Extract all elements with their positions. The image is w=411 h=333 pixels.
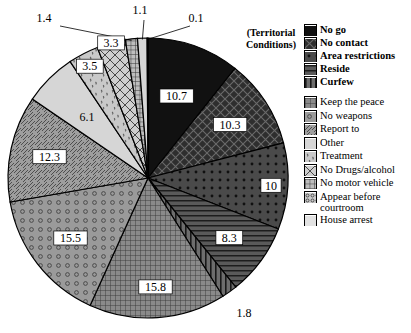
legend-item[interactable]: Keep the peace [304, 96, 411, 108]
pie-slice-value-label: 1.8 [237, 306, 252, 320]
legend-item[interactable]: No motor vehicle [304, 177, 411, 189]
pie-slice-value-label: 10 [261, 178, 281, 192]
pie-slice-value-text: 15.8 [145, 280, 166, 294]
pie-slices [8, 38, 288, 318]
pie-slice-value-label: 10.7 [160, 89, 193, 103]
pie-slice-value-text: 10.7 [166, 89, 187, 103]
legend-swatch-diagonal-lines-icon [304, 123, 317, 135]
legend-swatch-speckle-icon [304, 150, 317, 162]
pie-slice-value-label: 6.1 [79, 110, 94, 124]
pie-slice-value-label: 3.3 [98, 36, 125, 50]
legend-item[interactable]: No contact [304, 37, 411, 49]
legend-swatch-vertical-lines-icon [304, 76, 317, 88]
pie-slice-value-label: 1.1 [133, 3, 148, 17]
legend-item-label: Treatment [320, 150, 363, 161]
legend-item-label: No motor vehicle [320, 177, 393, 188]
legend-item-label: Report to [320, 123, 359, 134]
pie-chart-figure: 10.710.3108.31.815.815.512.36.13.53.31.4… [0, 0, 411, 333]
legend-item-label: Reside [320, 63, 350, 74]
legend-item[interactable]: No go [304, 24, 411, 36]
legend-item-label: No contact [320, 37, 368, 48]
legend-swatch-horizontal-lines-icon [304, 63, 317, 75]
legend-group-territorial: No goNo contactArea restrictionsResideCu… [304, 24, 411, 88]
pie-slice-value-text: 1.8 [237, 306, 252, 320]
legend-item-label: No go [320, 24, 346, 35]
pie-slice-value-text: 8.3 [222, 231, 237, 245]
legend-item-label: Appear before courtroom [320, 191, 380, 213]
legend-item-label: No Drugs/alcohol [320, 164, 395, 175]
legend-item[interactable]: Area restrictions [304, 50, 411, 62]
legend-group-other: Keep the peaceNo weaponsReport toOtherTr… [304, 96, 411, 226]
legend-item[interactable]: House arrest [304, 214, 411, 226]
pie-slice-value-text: 1.1 [133, 3, 148, 17]
pie-slice-value-text: 12.3 [39, 150, 60, 164]
pie-slice-value-label: 15.8 [139, 280, 172, 294]
legend-item[interactable]: Appear before courtroom [304, 191, 411, 213]
pie-slice-value-text: 10 [265, 179, 277, 193]
pie-slice-value-label: 15.5 [54, 231, 87, 245]
legend-group-divider [304, 89, 411, 96]
legend-swatch-fine-grid-icon [304, 96, 317, 108]
legend-item[interactable]: Report to [304, 123, 411, 135]
legend-swatch-circles-icon [304, 110, 317, 122]
legend-item[interactable]: Treatment [304, 150, 411, 162]
pie-leader-lines [60, 20, 190, 40]
pie-slice-value-text: 0.1 [189, 11, 204, 25]
pie-slice-value-text: 3.5 [82, 59, 97, 73]
legend-item-label: House arrest [320, 214, 373, 225]
legend-swatch-tiny-grid-icon [304, 191, 317, 203]
legend-item-label: Keep the peace [320, 96, 384, 107]
legend-swatch-pale-solid-icon [304, 214, 317, 226]
pie-slice-value-text: 10.3 [220, 118, 241, 132]
legend-item[interactable]: No Drugs/alcohol [304, 164, 411, 176]
legend-item[interactable]: Curfew [304, 76, 411, 88]
pie-slice-value-text: 6.1 [79, 110, 94, 124]
legend-item-label: Other [320, 137, 344, 148]
pie-slice-value-label: 12.3 [33, 150, 66, 164]
legend-item[interactable]: Reside [304, 63, 411, 75]
legend-item-label: Area restrictions [320, 50, 395, 61]
pie-slice-value-label: 10.3 [213, 118, 246, 132]
legend-item-label: No weapons [320, 110, 372, 121]
legend-swatch-light-solid-icon [304, 137, 317, 149]
chart-legend: No goNo contactArea restrictionsResideCu… [304, 24, 411, 228]
pie-slice-value-label: 0.1 [189, 11, 204, 25]
legend-heading: (Territorial Conditions) [240, 27, 302, 51]
legend-item[interactable]: Other [304, 137, 411, 149]
pie-slice-value-text: 1.4 [37, 11, 52, 25]
legend-swatch-solid-black-icon [304, 24, 317, 36]
pie-slice-value-label: 1.4 [37, 11, 52, 25]
legend-item[interactable]: No weapons [304, 110, 411, 122]
legend-swatch-dark-dots-icon [304, 50, 317, 62]
legend-swatch-diamond-hatch-icon [304, 164, 317, 176]
pie-slice-value-text: 3.3 [104, 36, 119, 50]
pie-slice-value-text: 15.5 [60, 231, 81, 245]
pie-slice-value-label: 3.5 [76, 59, 103, 73]
pie-slice-value-label: 8.3 [216, 231, 243, 245]
legend-swatch-dark-crosshatch-icon [304, 37, 317, 49]
legend-item-label: Curfew [320, 76, 354, 87]
legend-swatch-small-checks-icon [304, 177, 317, 189]
